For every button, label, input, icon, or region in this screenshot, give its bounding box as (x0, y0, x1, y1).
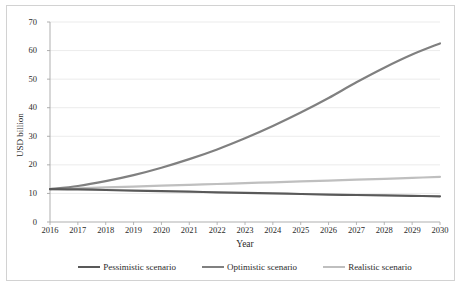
series-line (50, 177, 440, 189)
series-line (50, 43, 440, 189)
y-axis-tick-label: 0 (33, 218, 37, 227)
y-axis-tick-label: 20 (29, 160, 38, 169)
y-axis-tick-label: 40 (29, 103, 38, 112)
chart-figure: USD billion 010203040506070 201620172018… (0, 0, 461, 286)
x-axis-tick-label: 2025 (292, 226, 309, 235)
y-axis-tick-label: 50 (29, 75, 38, 84)
plot-area (50, 22, 440, 222)
x-axis-title: Year (50, 240, 440, 250)
x-axis-tick-label: 2028 (376, 226, 393, 235)
series-lines (50, 43, 440, 196)
x-axis-tick-label: 2016 (42, 226, 59, 235)
legend-item[interactable]: Realistic scenario (323, 263, 412, 272)
legend-item[interactable]: Pessimistic scenario (78, 263, 176, 272)
series-line (50, 189, 440, 196)
x-axis-tick-label: 2027 (348, 226, 365, 235)
x-axis-tick-label: 2024 (264, 226, 281, 235)
x-axis-tick-label: 2020 (153, 226, 170, 235)
x-axis-tick-label: 2018 (97, 226, 114, 235)
x-axis-tick-label: 2019 (125, 226, 142, 235)
legend-line-swatch (78, 266, 100, 268)
legend-item[interactable]: Optimistic scenario (202, 263, 297, 272)
x-axis-tick-label: 2030 (432, 226, 449, 235)
y-axis-tick-label: 60 (29, 46, 38, 55)
x-axis-tick-label: 2021 (181, 226, 198, 235)
legend-line-swatch (323, 266, 345, 268)
legend-label: Optimistic scenario (227, 263, 297, 272)
x-axis-tick-label: 2026 (320, 226, 337, 235)
y-axis-tick-label: 30 (29, 132, 38, 141)
x-axis-tick-label: 2017 (69, 226, 86, 235)
x-axis-tick-labels: 2016201720182019202020212022202320242025… (50, 226, 440, 240)
x-axis-tick-label: 2029 (404, 226, 421, 235)
legend-line-swatch (202, 266, 224, 268)
y-axis-tick-label: 70 (29, 18, 38, 27)
y-axis-tick-label: 10 (29, 189, 38, 198)
plot-svg (50, 22, 440, 222)
chart-legend: Pessimistic scenarioOptimistic scenarioR… (50, 259, 440, 275)
y-axis-tick-labels: 010203040506070 (0, 22, 46, 222)
x-axis-tick-label: 2022 (209, 226, 226, 235)
legend-label: Pessimistic scenario (103, 263, 176, 272)
legend-label: Realistic scenario (348, 263, 412, 272)
x-axis-tick-label: 2023 (237, 226, 254, 235)
